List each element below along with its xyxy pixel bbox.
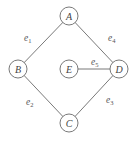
node-e-label: E: [65, 64, 72, 75]
edge-label-e1: e1: [24, 33, 31, 44]
node-b-label: B: [15, 64, 21, 75]
edge-label-e5: e5: [91, 57, 98, 68]
edge-label-e2: e2: [26, 97, 33, 108]
node-a: A: [60, 7, 78, 25]
edge-label-e4: e4: [108, 33, 116, 44]
node-c-label: C: [66, 118, 73, 129]
node-a-label: A: [65, 11, 73, 22]
node-d: D: [110, 60, 128, 78]
node-c: C: [60, 114, 78, 132]
node-d-label: D: [114, 64, 123, 75]
node-b: B: [9, 60, 27, 78]
graph-diagram: e1 e4 e5 e2 e3 A B E D: [0, 0, 135, 145]
nodes-layer: A B E D C: [9, 7, 128, 132]
edge-e2: [18, 69, 69, 123]
edge-e3: [69, 69, 119, 123]
edge-label-e3: e3: [106, 95, 113, 106]
node-e: E: [60, 60, 78, 78]
